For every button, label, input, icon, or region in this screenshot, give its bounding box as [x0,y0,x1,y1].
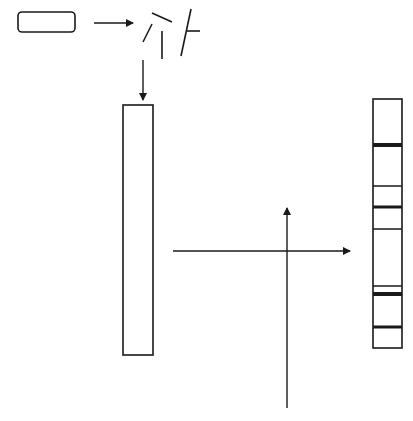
band-1 [373,143,402,147]
band-4 [373,228,402,230]
banded-lane [373,99,402,348]
band-2 [373,185,402,187]
band-6 [373,292,402,296]
band-7 [373,326,402,329]
empty-lane [123,105,153,355]
fragment-4 [181,9,191,56]
fragment-2 [143,24,152,42]
fragment-lines [143,9,200,59]
band-5 [373,285,402,287]
sample-block [18,12,75,32]
diagram-canvas [0,0,413,421]
band-3 [373,206,402,209]
diagram-svg [0,0,413,421]
diagram-nodes [18,12,402,355]
fragment-1 [152,13,172,22]
